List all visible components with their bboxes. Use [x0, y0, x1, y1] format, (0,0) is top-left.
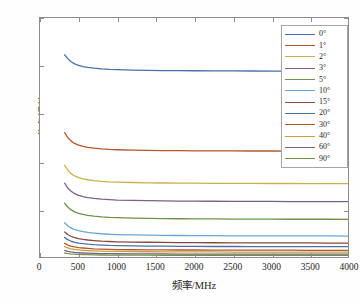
x-tick-mark [273, 18, 274, 22]
legend-item-label: 90° [319, 155, 330, 163]
legend-color-swatch [285, 68, 315, 69]
legend-item-label: 0° [319, 30, 326, 38]
legend-item-label: 1° [319, 42, 326, 50]
legend-color-swatch [285, 90, 315, 91]
x-tick-mark [311, 18, 312, 22]
x-tick-mark [195, 253, 196, 257]
legend-item-label: 20° [319, 109, 330, 117]
x-tick-mark [118, 18, 119, 22]
y-tick-mark [40, 66, 44, 67]
legend-color-swatch [285, 34, 315, 35]
legend-item-label: 15° [319, 98, 330, 106]
legend-color-swatch [285, 113, 315, 114]
legend-box[interactable]: 0°1°2°3°5°10°15°20°30°40°60°90° [281, 25, 348, 168]
figure-canvas: 仰角误差/mrad 0510152025 0500100015002000250… [0, 0, 361, 303]
legend-item[interactable]: 1° [285, 40, 345, 51]
x-axis-title: 频率/MHz [39, 277, 349, 292]
legend-color-swatch [285, 136, 315, 137]
legend-color-swatch [285, 56, 315, 57]
x-tick-mark [273, 253, 274, 257]
legend-item[interactable]: 90° [285, 153, 345, 164]
x-tick-mark [40, 18, 41, 22]
x-tick-mark [79, 253, 80, 257]
x-tick-mark [195, 18, 196, 22]
x-tick-mark [156, 253, 157, 257]
legend-item-label: 30° [319, 121, 330, 129]
legend-item-label: 3° [319, 64, 326, 72]
series-line [65, 203, 348, 219]
legend-color-swatch [285, 124, 315, 125]
x-tick-mark [156, 18, 157, 22]
y-tick-mark [40, 114, 44, 115]
x-tick-mark [234, 253, 235, 257]
legend-item[interactable]: 40° [285, 131, 345, 142]
y-tick-mark [40, 163, 44, 164]
legend-item[interactable]: 30° [285, 120, 345, 131]
legend-color-swatch [285, 79, 315, 80]
x-tick-mark [40, 253, 41, 257]
series-line [65, 223, 348, 236]
x-tick-mark [234, 18, 235, 22]
legend-item-label: 10° [319, 87, 330, 95]
legend-item-label: 40° [319, 132, 330, 140]
legend-item[interactable]: 2° [285, 52, 345, 63]
legend-color-swatch [285, 147, 315, 148]
legend-color-swatch [285, 158, 315, 159]
x-tick-label: 4000 [326, 262, 361, 273]
series-line [65, 183, 348, 201]
x-tick-mark [79, 18, 80, 22]
x-tick-mark [118, 253, 119, 257]
x-tick-mark [311, 253, 312, 257]
legend-item[interactable]: 5° [285, 74, 345, 85]
y-tick-mark [344, 18, 348, 19]
legend-item[interactable]: 10° [285, 86, 345, 97]
legend-color-swatch [285, 45, 315, 46]
legend-color-swatch [285, 102, 315, 103]
legend-item-label: 2° [319, 53, 326, 61]
y-tick-mark [40, 211, 44, 212]
legend-item-label: 5° [319, 76, 326, 84]
legend-item[interactable]: 15° [285, 97, 345, 108]
legend-item[interactable]: 0° [285, 29, 345, 40]
legend-item-label: 60° [319, 143, 330, 151]
legend-item[interactable]: 60° [285, 142, 345, 153]
y-tick-mark [344, 211, 348, 212]
legend-item[interactable]: 3° [285, 63, 345, 74]
legend-item[interactable]: 20° [285, 108, 345, 119]
